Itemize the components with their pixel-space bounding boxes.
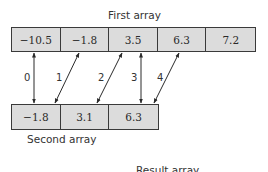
mapping-arrows xyxy=(0,0,268,172)
index-label-0: 0 xyxy=(24,72,30,83)
second-array-cell-1: 3.1 xyxy=(61,105,110,129)
index-label-3: 3 xyxy=(131,72,137,83)
first-array-cell-1: −1.8 xyxy=(61,28,110,51)
first-array-label: First array xyxy=(108,9,161,21)
first-array: −10.5 −1.8 3.5 6.3 7.2 xyxy=(11,27,256,52)
first-array-cell-2: 3.5 xyxy=(109,28,158,51)
index-label-2: 2 xyxy=(98,72,104,83)
first-array-cell-3: 6.3 xyxy=(158,28,207,51)
second-array-label: Second array xyxy=(27,133,97,145)
result-array-label: Result array xyxy=(136,164,199,172)
second-array: −1.8 3.1 6.3 xyxy=(11,104,159,130)
second-array-cell-0: −1.8 xyxy=(12,105,61,129)
index-label-4: 4 xyxy=(157,72,163,83)
first-array-cell-4: 7.2 xyxy=(206,28,255,51)
second-array-cell-2: 6.3 xyxy=(109,105,158,129)
index-label-1: 1 xyxy=(56,72,62,83)
first-array-cell-0: −10.5 xyxy=(12,28,61,51)
